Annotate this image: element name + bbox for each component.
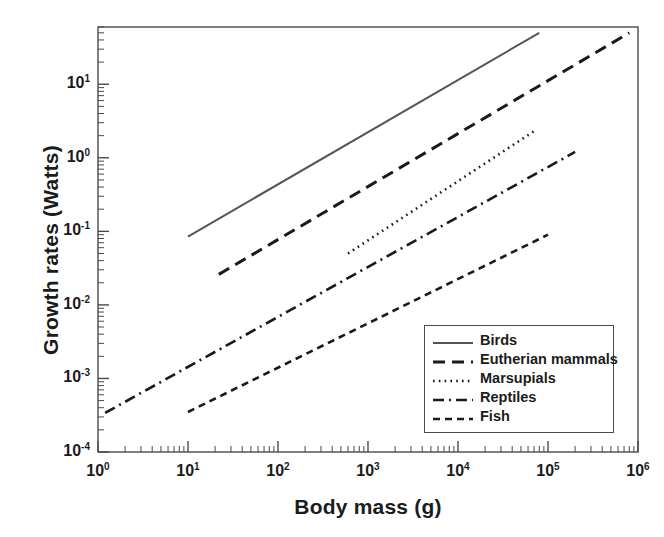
plot-canvas (0, 0, 664, 537)
legend-line-swatch (432, 411, 474, 423)
legend-item-label: Marsupials (480, 371, 556, 386)
x-tick-label: 102 (248, 462, 308, 480)
legend-line-swatch (432, 335, 474, 347)
legend-item-reptiles[interactable]: Reptiles (432, 388, 606, 407)
legend-item-label: Eutherian mammals (480, 352, 618, 367)
x-tick-label: 105 (518, 462, 578, 480)
series-line-eutherian-mammals (219, 33, 629, 275)
series-line-marsupials (348, 131, 534, 253)
x-tick-label: 100 (68, 462, 128, 480)
y-tick-label: 101 (34, 74, 90, 92)
legend-line-swatch (432, 392, 474, 404)
legend-item-label: Birds (480, 333, 517, 348)
legend-item-label: Reptiles (480, 390, 536, 405)
legend-item-eutherian-mammals[interactable]: Eutherian mammals (432, 350, 606, 369)
y-tick-label: 10-4 (34, 442, 90, 460)
legend-item-marsupials[interactable]: Marsupials (432, 369, 606, 388)
legend-line-swatch (432, 354, 474, 366)
y-tick-label: 10-2 (34, 295, 90, 313)
x-tick-label: 103 (338, 462, 398, 480)
legend-box: BirdsEutherian mammalsMarsupialsReptiles… (424, 325, 614, 433)
x-tick-label: 104 (428, 462, 488, 480)
y-tick-label: 10-3 (34, 368, 90, 386)
figure-container: Growth rates (Watts) Body mass (g) 10110… (0, 0, 664, 537)
legend-item-birds[interactable]: Birds (432, 331, 606, 350)
x-axis-title: Body mass (g) (98, 495, 638, 519)
x-tick-label: 106 (608, 462, 664, 480)
y-tick-label: 10-1 (34, 221, 90, 239)
legend-item-label: Fish (480, 409, 510, 424)
y-tick-label: 100 (34, 148, 90, 166)
x-tick-label: 101 (158, 462, 218, 480)
legend-item-fish[interactable]: Fish (432, 407, 606, 426)
legend-line-swatch (432, 373, 474, 385)
series-line-birds (188, 33, 539, 237)
